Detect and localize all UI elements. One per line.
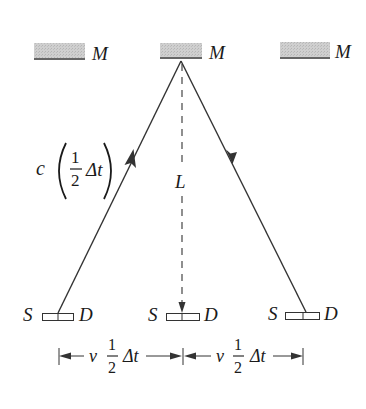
vertical-distance: L — [174, 64, 186, 313]
velocity-label: v — [89, 346, 97, 366]
source-label: S — [148, 304, 158, 325]
source-detector-left: S D — [23, 304, 93, 325]
mirror-label: M — [208, 42, 226, 63]
paren-left-icon — [59, 143, 66, 199]
source-label: S — [23, 304, 33, 325]
arrow-left-icon — [184, 353, 196, 360]
downward-path — [181, 61, 306, 312]
fraction-denominator: 2 — [71, 171, 80, 190]
mirror-left: M — [34, 43, 109, 64]
detector-label: D — [78, 304, 93, 325]
dimension-right: v 1 2 Δt — [184, 336, 303, 376]
velocity-label: v — [216, 346, 224, 366]
mirror-label: M — [334, 41, 352, 62]
source-label: S — [268, 303, 278, 324]
mirror-center: M — [160, 42, 226, 63]
delta-t-label: Δt — [85, 159, 103, 180]
mirror-right: M — [280, 41, 352, 62]
arrow-down-icon — [179, 302, 186, 313]
arrow-left-icon — [59, 353, 71, 360]
arrow-right-icon — [291, 353, 303, 360]
fraction-numerator: 1 — [108, 336, 116, 353]
mirror-label: M — [91, 43, 109, 64]
diagonal-label: c 1 2 Δt — [36, 143, 111, 199]
fraction-numerator: 1 — [234, 336, 242, 353]
paren-right-icon — [104, 143, 111, 199]
length-label: L — [174, 171, 186, 192]
delta-t-label: Δt — [249, 346, 267, 366]
fraction-denominator: 2 — [108, 359, 116, 376]
fraction-denominator: 2 — [234, 359, 242, 376]
arrow-right-icon — [170, 353, 182, 360]
detector-label: D — [203, 304, 218, 325]
fraction-numerator: 1 — [71, 148, 80, 167]
light-clock-diagram: M M M L c 1 2 Δt S D — [0, 0, 366, 409]
dimension-left: v 1 2 Δt — [59, 336, 182, 376]
speed-of-light-label: c — [36, 157, 45, 179]
detector-label: D — [323, 303, 338, 324]
delta-t-label: Δt — [122, 346, 140, 366]
